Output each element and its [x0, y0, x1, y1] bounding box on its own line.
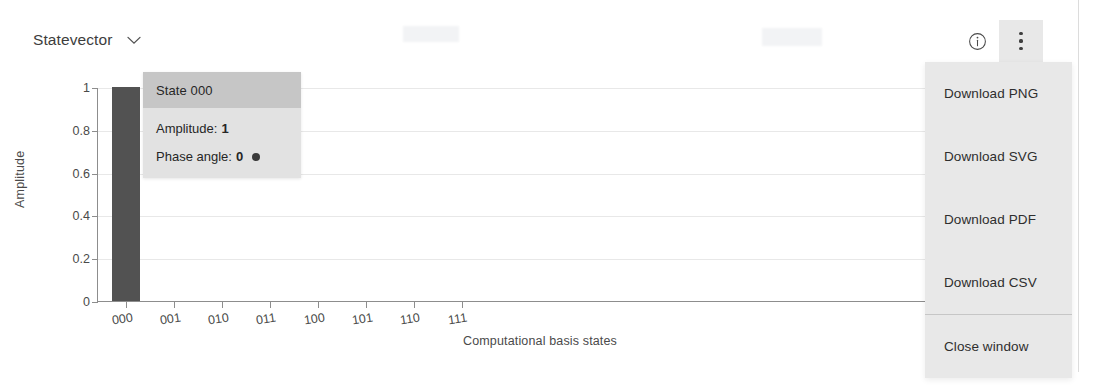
- y-tickmark: [92, 259, 97, 260]
- x-tick-label: 011: [255, 311, 277, 328]
- tooltip-phase-value: 0: [236, 149, 243, 164]
- y-tick-label: 0.2: [44, 252, 90, 266]
- statevector-window: Statevector: [0, 0, 1115, 391]
- tooltip-amplitude-label: Amplitude:: [156, 121, 217, 136]
- x-tickmark: [414, 302, 415, 308]
- gridline: [98, 259, 1069, 260]
- y-tick-label: 0.6: [44, 167, 90, 181]
- tooltip-phase-label: Phase angle:: [156, 149, 232, 164]
- x-tick-label: 010: [207, 310, 230, 327]
- tooltip-phase-row: Phase angle: 0: [156, 149, 288, 164]
- y-axis-line: [97, 88, 98, 303]
- statevector-dropdown[interactable]: Statevector: [33, 31, 141, 49]
- x-tickmark: [318, 302, 319, 308]
- x-tickmark: [270, 302, 271, 308]
- menu-item-download-csv[interactable]: Download CSV: [925, 251, 1072, 314]
- info-icon: [968, 32, 987, 51]
- menu-item-close-window[interactable]: Close window: [925, 314, 1072, 378]
- x-tick-label: 111: [447, 311, 468, 328]
- x-axis-title: Computational basis states: [0, 334, 1080, 348]
- outer-page-margin: [1079, 0, 1115, 391]
- gridline: [98, 216, 1069, 217]
- y-tickmark: [92, 88, 97, 89]
- x-tickmark: [366, 302, 367, 308]
- page-title: Statevector: [33, 31, 113, 49]
- y-tick-label: 0: [44, 295, 90, 309]
- menu-item-download-svg[interactable]: Download SVG: [925, 125, 1072, 188]
- x-tick-label: 110: [399, 311, 421, 328]
- tooltip-amplitude-row: Amplitude: 1: [156, 121, 288, 136]
- x-tickmark: [462, 302, 463, 308]
- x-tick-label: 101: [351, 310, 374, 327]
- tooltip-body: Amplitude: 1 Phase angle: 0: [143, 108, 301, 178]
- overflow-menu-button[interactable]: [999, 20, 1043, 62]
- x-tick-label: 001: [159, 310, 182, 327]
- bar-tooltip: State 000 Amplitude: 1 Phase angle: 0: [143, 72, 301, 178]
- x-tickmark: [222, 302, 223, 308]
- phase-color-dot-icon: [252, 153, 260, 161]
- y-tickmark: [92, 174, 97, 175]
- y-tick-label: 1: [44, 81, 90, 95]
- overflow-menu: Download PNG Download SVG Download PDF D…: [925, 62, 1072, 378]
- y-axis-title: Amplitude: [13, 151, 27, 208]
- x-tick-label: 000: [111, 310, 134, 327]
- menu-item-download-pdf[interactable]: Download PDF: [925, 188, 1072, 251]
- info-button[interactable]: [955, 20, 999, 62]
- window-header: Statevector: [0, 0, 1080, 62]
- x-tickmark: [126, 302, 127, 308]
- overflow-menu-icon: [1019, 32, 1023, 50]
- y-tick-label: 0.4: [44, 209, 90, 223]
- y-tickmark: [92, 302, 97, 303]
- x-tickmark: [174, 302, 175, 308]
- tooltip-state-label: State 000: [143, 72, 301, 108]
- x-tick-label: 100: [303, 310, 326, 327]
- bar-000[interactable]: [112, 87, 140, 301]
- menu-item-download-png[interactable]: Download PNG: [925, 62, 1072, 125]
- tooltip-amplitude-value: 1: [221, 121, 228, 136]
- y-tickmark: [92, 216, 97, 217]
- y-tickmark: [92, 131, 97, 132]
- chevron-down-icon[interactable]: [127, 36, 141, 45]
- header-actions: [955, 20, 1043, 62]
- x-axis-line: [97, 301, 1069, 302]
- y-tick-label: 0.8: [44, 124, 90, 138]
